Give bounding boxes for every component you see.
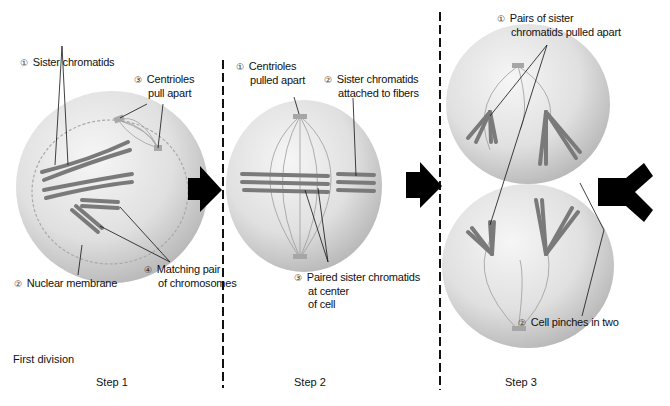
label-step1-nuclear-membrane: ②Nuclear membrane: [14, 277, 117, 291]
step2-cell: [226, 100, 382, 272]
label-step3-pairs-pulled-apart: ①Pairs of sister chromatids pulled apart: [497, 12, 621, 39]
section-label-first-division: First division: [13, 353, 74, 365]
label-step2-paired-sister-chromatids: ③Paired sister chromatids at center of c…: [294, 271, 420, 311]
step-label-2: Step 2: [294, 376, 326, 388]
label-step1-matching-pair: ④Matching pair of chromosomes: [144, 263, 237, 290]
step1-cell: [16, 91, 208, 283]
arrow-step2-to-step3: [406, 162, 442, 208]
label-step2-sister-chromatids-fibers: ②Sister chromatids attached to fibers: [324, 73, 419, 100]
label-step1-sister-chromatids: ①Sister chromatids: [20, 56, 114, 70]
step3-cells: [442, 24, 614, 348]
step-label-1: Step 1: [96, 376, 128, 388]
label-step3-cell-pinches: ②Cell pinches in two: [518, 316, 619, 330]
label-step2-centrioles-pulled-apart: ①Centrioles pulled apart: [236, 60, 305, 87]
label-step1-centrioles-pull-apart: ③Centrioles pull apart: [134, 73, 194, 100]
step-label-3: Step 3: [505, 376, 537, 388]
split-arrow-step3: [598, 163, 653, 222]
